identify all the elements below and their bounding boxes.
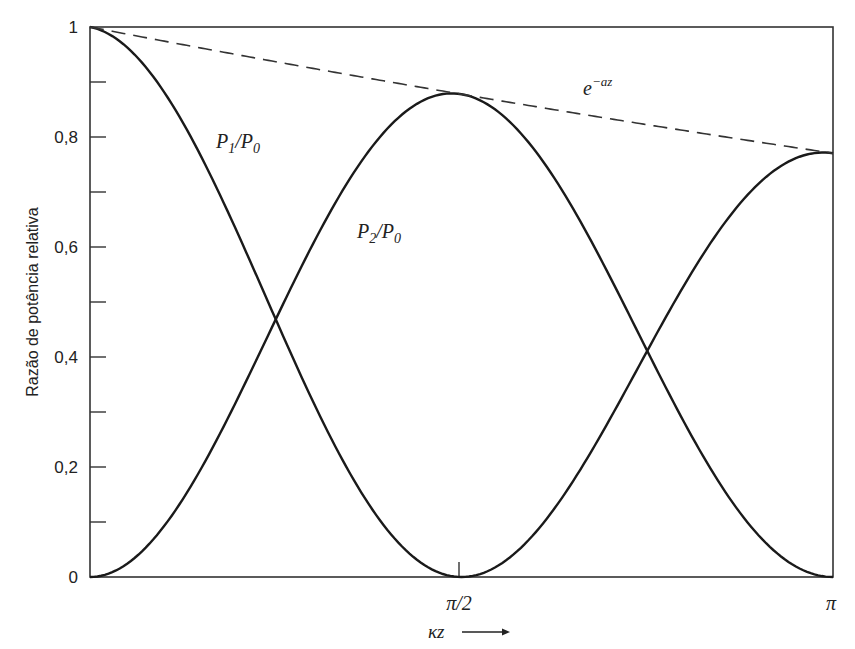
arrow-right-icon [462,629,510,636]
y-tick-label: 0,8 [54,128,78,147]
series-label-envelope: e−az [583,74,612,99]
power-ratio-chart: 00,20,40,60,81 π/2 π κz Razão de potênci… [0,0,855,649]
series-p2-p0-line [90,93,833,577]
series-p1-p0-line [90,27,833,577]
x-axis-title: κz [428,621,445,642]
y-tick-label: 0,6 [54,238,78,257]
y-axis-title: Razão de potência relativa [24,207,41,397]
y-tick-label: 0,4 [54,348,78,367]
x-tick-label-pi-half: π/2 [446,592,472,614]
x-tick-label-pi: π [826,592,837,614]
y-axis-ticks: 00,20,40,60,81 [54,18,106,587]
y-tick-label: 1 [69,18,78,37]
y-tick-label: 0 [69,568,78,587]
series-label-p2-p0: P2/P0 [356,220,401,246]
series-label-p1-p0: P1/P0 [215,130,260,156]
y-tick-label: 0,2 [54,458,78,477]
series-attenuation-envelope-line [90,27,833,153]
plot-frame [90,27,833,577]
